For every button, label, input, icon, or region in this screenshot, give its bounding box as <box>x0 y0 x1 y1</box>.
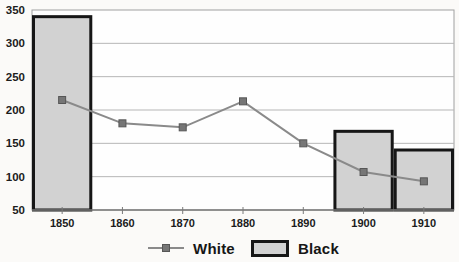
y-tick-label-200: 200 <box>6 104 25 116</box>
x-tick-label-1900: 1900 <box>351 217 375 229</box>
chart-legend: White Black <box>0 236 459 260</box>
bar-series-icon <box>251 240 289 257</box>
legend-label-black: Black <box>298 240 339 257</box>
x-tick-label-1910: 1910 <box>412 217 436 229</box>
marker-white-1870 <box>179 124 186 131</box>
line-series-icon <box>148 244 184 253</box>
y-tick-label-350: 350 <box>6 4 25 16</box>
y-tick-label-250: 250 <box>6 71 25 83</box>
marker-white-1890 <box>300 140 307 147</box>
marker-white-1880 <box>240 98 247 105</box>
x-tick-label-1880: 1880 <box>231 217 255 229</box>
chart-image: 5010015020025030035018501860187018801890… <box>0 0 459 262</box>
plot-area: 5010015020025030035018501860187018801890… <box>0 0 459 234</box>
y-tick-label-300: 300 <box>6 37 25 49</box>
marker-white-1900 <box>360 169 367 176</box>
x-tick-label-1870: 1870 <box>170 217 194 229</box>
legend-label-white: White <box>193 240 235 257</box>
x-tick-label-1890: 1890 <box>291 217 315 229</box>
y-tick-label-50: 50 <box>12 204 25 216</box>
legend-line-marker <box>162 244 170 252</box>
legend-item-black: Black <box>251 240 339 257</box>
x-tick-label-1850: 1850 <box>50 217 74 229</box>
marker-white-1910 <box>420 178 427 185</box>
marker-white-1860 <box>119 120 126 127</box>
marker-white-1850 <box>59 97 66 104</box>
y-tick-label-150: 150 <box>6 137 25 149</box>
bar-black-1850 <box>34 17 91 210</box>
y-tick-label-100: 100 <box>6 171 25 183</box>
x-tick-label-1860: 1860 <box>110 217 134 229</box>
legend-item-white: White <box>148 240 235 257</box>
